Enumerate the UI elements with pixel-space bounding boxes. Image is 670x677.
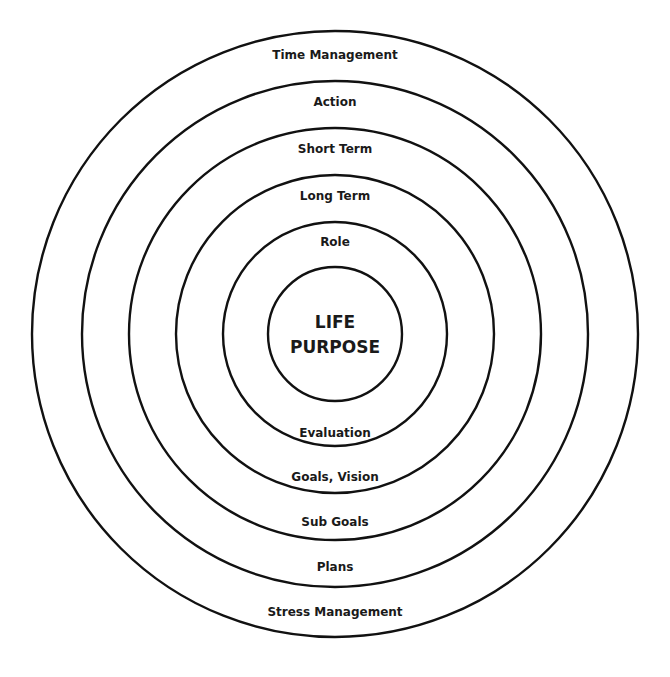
label-action: Action xyxy=(313,95,356,109)
ring-life-purpose-core xyxy=(268,267,402,401)
label-evaluation: Evaluation xyxy=(299,426,371,440)
label-sub-goals: Sub Goals xyxy=(301,515,368,529)
label-goals-vision: Goals, Vision xyxy=(291,470,378,484)
label-plans: Plans xyxy=(317,560,354,574)
label-stress-management: Stress Management xyxy=(267,605,402,619)
ring-outer-time-stress xyxy=(32,31,638,637)
ring-role-evaluation xyxy=(223,222,447,446)
label-time-management: Time Management xyxy=(272,48,398,62)
center-label-purpose: PURPOSE xyxy=(290,337,380,357)
center-label-life: LIFE xyxy=(315,312,355,332)
label-long-term: Long Term xyxy=(300,189,370,203)
label-short-term: Short Term xyxy=(298,142,372,156)
label-role: Role xyxy=(320,235,350,249)
concentric-circle-diagram: Time Management Action Short Term Long T… xyxy=(0,0,670,677)
ring-action-plans xyxy=(82,81,588,587)
